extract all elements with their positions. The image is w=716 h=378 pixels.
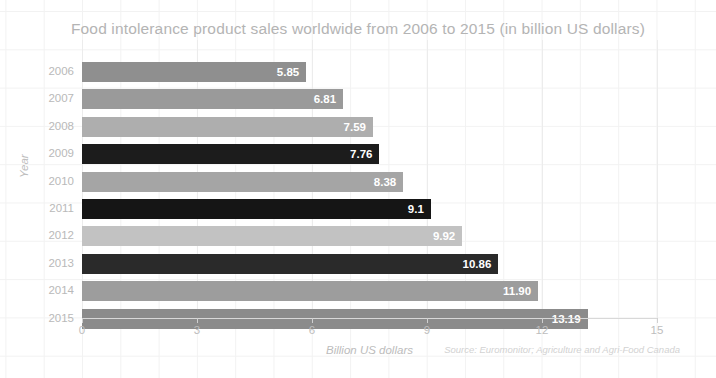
x-tick-0: 0 xyxy=(62,324,102,336)
chart-title: Food intolerance product sales worldwide… xyxy=(0,20,716,38)
bar-value-label: 7.59 xyxy=(344,117,366,137)
y-tick-2012: 2012 xyxy=(4,229,74,241)
bar-2009[interactable] xyxy=(82,144,379,164)
bar-2007[interactable] xyxy=(82,89,343,109)
y-tick-2008: 2008 xyxy=(4,120,74,132)
bar-value-label: 9.1 xyxy=(408,199,424,219)
bar-value-label: 10.86 xyxy=(463,254,492,274)
y-tick-2013: 2013 xyxy=(4,257,74,269)
bar-2011[interactable] xyxy=(82,199,431,219)
bar-value-label: 11.90 xyxy=(503,281,531,301)
gridline-15 xyxy=(657,40,658,318)
y-tick-2010: 2010 xyxy=(4,175,74,187)
bar-2013[interactable] xyxy=(82,254,498,274)
x-tick-9: 9 xyxy=(407,324,447,336)
bar-2012[interactable] xyxy=(82,226,462,246)
x-tick-12: 12 xyxy=(522,324,562,336)
y-tick-2007: 2007 xyxy=(4,92,74,104)
bar-row[interactable]: 7.76 xyxy=(82,144,379,164)
bar-value-label: 5.85 xyxy=(277,62,299,82)
bar-row[interactable]: 9.92 xyxy=(82,226,462,246)
bar-row[interactable]: 10.86 xyxy=(82,254,498,274)
bar-row[interactable]: 7.59 xyxy=(82,117,373,137)
bar-2006[interactable] xyxy=(82,62,306,82)
bar-row[interactable]: 8.38 xyxy=(82,172,403,192)
bar-2008[interactable] xyxy=(82,117,373,137)
x-tick-mark-15 xyxy=(657,318,658,323)
y-tick-2009: 2009 xyxy=(4,147,74,159)
x-tick-mark-12 xyxy=(542,318,543,323)
x-tick-mark-9 xyxy=(427,318,428,323)
bar-value-label: 7.76 xyxy=(350,144,372,164)
x-tick-mark-6 xyxy=(312,318,313,323)
x-tick-3: 3 xyxy=(177,324,217,336)
bar-2014[interactable] xyxy=(82,281,538,301)
bar-row[interactable]: 9.1 xyxy=(82,199,431,219)
x-tick-6: 6 xyxy=(292,324,332,336)
x-tick-mark-3 xyxy=(197,318,198,323)
chart-page: Food intolerance product sales worldwide… xyxy=(0,0,716,378)
bar-row[interactable]: 6.81 xyxy=(82,89,343,109)
y-tick-2014: 2014 xyxy=(4,284,74,296)
bar-value-label: 6.81 xyxy=(314,89,336,109)
x-tick-mark-0 xyxy=(82,318,83,323)
y-tick-2011: 2011 xyxy=(4,202,74,214)
gridline-9 xyxy=(427,40,428,318)
y-tick-2015: 2015 xyxy=(4,312,74,324)
x-axis-line xyxy=(82,318,657,319)
y-tick-2006: 2006 xyxy=(4,65,74,77)
bar-value-label: 9.92 xyxy=(433,226,455,246)
gridline-12 xyxy=(542,40,543,318)
source-note: Source: Euromonitor; Agriculture and Agr… xyxy=(444,344,680,355)
bar-value-label: 8.38 xyxy=(374,172,396,192)
bar-2010[interactable] xyxy=(82,172,403,192)
bar-row[interactable]: 5.85 xyxy=(82,62,306,82)
bar-row[interactable]: 11.90 xyxy=(82,281,538,301)
x-tick-15: 15 xyxy=(637,324,677,336)
